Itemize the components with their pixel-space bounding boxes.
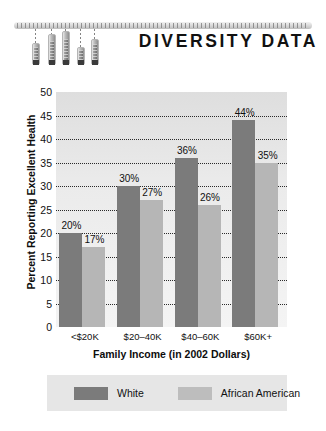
bar-african-american xyxy=(140,200,163,327)
hanging-bar-dotted-line xyxy=(94,29,95,39)
x-tick-label: $40–60K xyxy=(172,331,230,342)
bar-white xyxy=(175,158,198,327)
y-tick-label: 5 xyxy=(30,298,52,310)
legend-label-white: White xyxy=(117,387,144,399)
ruler-bar-icon xyxy=(14,22,312,29)
bar-african-american xyxy=(198,205,221,327)
y-tick-label: 10 xyxy=(30,274,52,286)
bar-value-label: 44% xyxy=(231,107,258,118)
thermometer-bulb xyxy=(78,60,84,65)
y-tick-label: 0 xyxy=(30,321,52,333)
ruler-ticks xyxy=(17,23,309,28)
x-tick-label: $60K+ xyxy=(229,331,287,342)
legend-swatch-african-american xyxy=(178,387,212,400)
bar-white xyxy=(59,233,82,327)
bar-value-label: 17% xyxy=(81,234,108,245)
hanging-bar-dotted-line xyxy=(80,29,81,47)
bar-value-label: 20% xyxy=(58,220,85,231)
y-tick-label: 35 xyxy=(30,157,52,169)
bar-value-label: 36% xyxy=(174,145,201,156)
bar-value-label: 27% xyxy=(139,187,166,198)
thermometer-bulb xyxy=(49,60,55,65)
page-title: DIVERSITY DATA xyxy=(139,31,318,52)
thermometer-bulb xyxy=(63,60,69,65)
x-tick-label: $20–40K xyxy=(114,331,172,342)
y-tick-label: 30 xyxy=(30,180,52,192)
legend-swatch-white xyxy=(74,387,108,400)
legend-item-white: White xyxy=(74,387,144,400)
y-tick-label: 40 xyxy=(30,133,52,145)
legend-item-african-american: African American xyxy=(178,387,300,400)
bar-white xyxy=(232,120,255,327)
bar-african-american xyxy=(82,247,105,327)
thermometer-bulb xyxy=(92,60,98,65)
y-tick-label: 45 xyxy=(30,110,52,122)
bar-chart: Percent Reporting Excellent Health 05101… xyxy=(0,78,326,368)
bar-african-american xyxy=(255,163,278,328)
thermometer-bulb xyxy=(33,60,39,65)
x-tick-label: <$20K xyxy=(56,331,114,342)
y-tick-label: 25 xyxy=(30,204,52,216)
legend-label-african-american: African American xyxy=(221,387,300,399)
x-axis-title: Family Income (in 2002 Dollars) xyxy=(56,348,287,360)
bar-white xyxy=(117,186,140,327)
bar-value-label: 35% xyxy=(254,150,281,161)
y-tick-label: 50 xyxy=(30,86,52,98)
y-tick-label: 15 xyxy=(30,251,52,263)
y-tick-label: 20 xyxy=(30,227,52,239)
hanging-bar-dotted-line xyxy=(35,29,36,43)
plot-area: 20%17%30%27%36%26%44%35% xyxy=(56,92,287,327)
chart-legend: White African American xyxy=(47,375,287,411)
bar-value-label: 30% xyxy=(116,173,143,184)
bar-value-label: 26% xyxy=(197,192,224,203)
